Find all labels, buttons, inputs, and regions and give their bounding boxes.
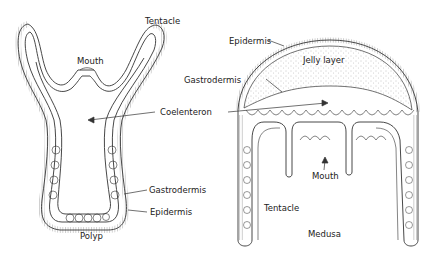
label-polyp-epidermis: Epidermis <box>150 208 192 217</box>
label-medusa-mouth: Mouth <box>312 172 339 181</box>
label-polyp-gastrodermis: Gastrodermis <box>149 186 206 195</box>
medusa-drawing <box>238 40 418 246</box>
label-polyp-title: Polyp <box>80 232 103 241</box>
label-medusa-jelly-layer: Jelly layer <box>303 56 345 65</box>
label-medusa-title: Medusa <box>308 230 341 239</box>
cnidarian-body-plan-illustration <box>0 0 434 256</box>
label-medusa-epidermis: Epidermis <box>229 37 271 46</box>
diagram-canvas: Tentacle Mouth Gastrodermis Epidermis Po… <box>0 0 434 256</box>
label-medusa-tentacle: Tentacle <box>264 204 299 213</box>
label-coelenteron: Coelenteron <box>160 108 212 117</box>
label-medusa-gastrodermis: Gastrodermis <box>184 76 241 85</box>
label-polyp-tentacle: Tentacle <box>145 17 180 26</box>
polyp-drawing <box>18 24 164 230</box>
label-polyp-mouth: Mouth <box>77 57 104 66</box>
